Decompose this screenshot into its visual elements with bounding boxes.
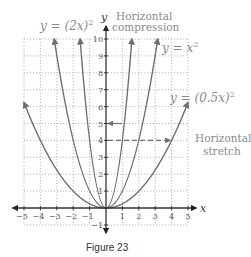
svg-text:5: 5	[185, 212, 190, 221]
stretch-label: Horizontal	[195, 132, 251, 144]
label-x-squared: y = x2	[161, 40, 198, 55]
svg-text:4: 4	[98, 136, 103, 145]
x-axis-label: x	[200, 202, 207, 215]
y-axis-label: y	[100, 11, 108, 24]
svg-text:1: 1	[120, 212, 125, 221]
figure-caption: Figure 23	[86, 242, 129, 253]
stretch-label-2: stretch	[203, 145, 241, 157]
svg-text:−3: −3	[49, 212, 61, 221]
svg-text:6: 6	[98, 103, 103, 112]
label-half-x-squared: y = (0.5x)2	[169, 90, 235, 105]
svg-text:−2: −2	[65, 212, 77, 221]
svg-text:−1: −1	[91, 221, 103, 230]
svg-text:7: 7	[98, 86, 103, 95]
svg-text:3: 3	[98, 153, 103, 162]
x-tick-labels: −5 −4 −3 −2 −1 1 2 3 4 5	[16, 212, 190, 221]
y-tick-labels: 10 9 8 7 6 5 4 3 2 1 −1	[91, 35, 103, 230]
compression-label-2: compression	[112, 21, 180, 33]
svg-text:8: 8	[98, 69, 103, 78]
svg-text:2: 2	[98, 170, 103, 179]
svg-text:−1: −1	[82, 212, 94, 221]
svg-text:1: 1	[98, 187, 103, 196]
svg-text:5: 5	[98, 120, 103, 129]
svg-text:−5: −5	[16, 212, 28, 221]
svg-text:3: 3	[153, 212, 158, 221]
label-2x-squared: y = (2x)2	[39, 18, 93, 33]
svg-text:10: 10	[93, 35, 103, 44]
svg-text:4: 4	[169, 212, 174, 221]
svg-text:9: 9	[98, 52, 103, 61]
svg-text:−4: −4	[33, 212, 45, 221]
parabola-chart: x y −5 −4 −3 −2 −1 1 2 3 4 5	[0, 0, 251, 257]
svg-text:2: 2	[136, 212, 141, 221]
